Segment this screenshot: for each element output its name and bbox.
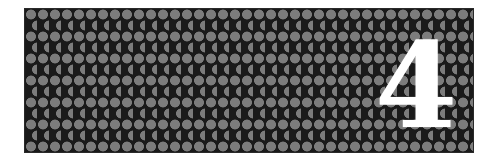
number-four: 4	[375, 31, 445, 141]
circle-pattern-panel: 4	[25, 9, 473, 152]
